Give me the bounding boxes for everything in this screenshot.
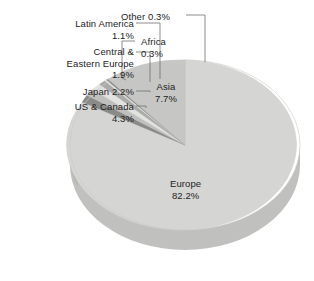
slice-label-asia: Asia 7.7% (155, 81, 177, 104)
pie-chart-page: Latin America 1.1% Central & Eastern Eur… (0, 0, 314, 281)
slice-label-japan: Japan 2.2% (83, 86, 134, 98)
slice-label-europe: Europe 82.2% (170, 178, 201, 201)
slice-label-us-canada: US & Canada 4.3% (75, 101, 134, 124)
slice-label-central-eastern-europe: Central & Eastern Europe 1.9% (67, 46, 134, 81)
slice-label-other: Other 0.3% (121, 11, 170, 23)
slice-label-africa: Africa 0.3% (141, 36, 166, 59)
leader-line-other (186, 15, 205, 62)
